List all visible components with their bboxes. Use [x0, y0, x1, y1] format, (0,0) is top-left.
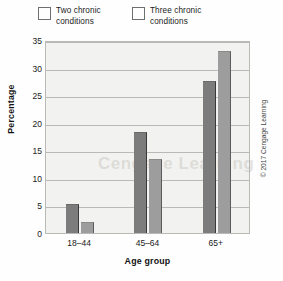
- bar-group-45-64: [114, 42, 182, 233]
- x-tick-label-65-: 65+: [209, 238, 223, 248]
- bar-chart-figure: Two chronic conditions Three chronic con…: [0, 0, 283, 281]
- legend-label-series-1: Three chronic conditions: [150, 6, 212, 27]
- bar-series-1-45-64: [149, 159, 162, 233]
- bar-series-1-18-44: [81, 222, 94, 233]
- x-axis-tick-labels: 18–4445–6465+: [45, 238, 250, 252]
- y-tick-label-25: 25: [33, 91, 42, 101]
- bar-series-0-18-44: [66, 204, 79, 233]
- y-tick-label-30: 30: [33, 64, 42, 74]
- x-tick-label-45-64: 45–64: [136, 238, 160, 248]
- y-tick-label-35: 35: [33, 36, 42, 46]
- x-tick-label-18-44: 18–44: [67, 238, 91, 248]
- y-tick-label-0: 0: [37, 229, 42, 239]
- chart-legend: Two chronic conditions Three chronic con…: [38, 6, 238, 38]
- plot-area: Cengage Learning: [45, 41, 250, 234]
- legend-item-two-chronic: Two chronic conditions: [38, 6, 118, 27]
- bar-series-1-65-: [218, 51, 231, 233]
- legend-item-three-chronic: Three chronic conditions: [132, 6, 212, 27]
- legend-swatch-series-1: [132, 7, 145, 20]
- y-tick-label-20: 20: [33, 119, 42, 129]
- bar-series-0-65-: [203, 81, 216, 233]
- bar-group-65-: [183, 42, 251, 233]
- y-tick-label-5: 5: [37, 201, 42, 211]
- y-tick-label-15: 15: [33, 146, 42, 156]
- bar-series-0-45-64: [134, 132, 147, 233]
- copyright-credit: © 2017 Cengage Learning: [260, 84, 267, 194]
- x-axis-title: Age group: [45, 256, 250, 266]
- y-axis-title: Percentage: [6, 64, 16, 154]
- y-tick-label-10: 10: [33, 174, 42, 184]
- legend-swatch-series-0: [38, 7, 51, 20]
- legend-label-series-0: Two chronic conditions: [56, 6, 118, 27]
- bars-layer: [46, 42, 249, 233]
- y-axis-tick-labels: 05101520253035: [20, 41, 42, 234]
- bar-group-18-44: [46, 42, 114, 233]
